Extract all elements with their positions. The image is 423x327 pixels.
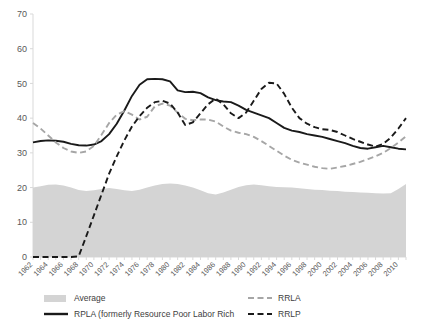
legend-label: RRLP [278, 309, 301, 319]
chart-series-group [33, 79, 406, 257]
y-tick-label: 30 [17, 148, 27, 158]
x-tick-label: 1988 [214, 260, 232, 278]
chart-legend: AverageRPLA (formerly Resource Poor Labo… [44, 293, 301, 319]
y-tick-label: 60 [17, 44, 27, 54]
x-tick-label: 2004 [336, 260, 354, 278]
x-tick-label: 1964 [31, 260, 49, 278]
x-tick-label: 1968 [62, 260, 80, 278]
x-tick-label: 2000 [306, 260, 324, 278]
chart-plot: 010203040506070 196219641966196819701972… [0, 0, 423, 327]
series-line-2 [33, 104, 406, 169]
legend-label: Average [74, 293, 106, 303]
legend-label: RRLA [278, 293, 301, 303]
legend-item-average: Average [44, 293, 106, 303]
series-area-0 [33, 183, 406, 257]
y-tick-label: 70 [17, 9, 27, 19]
y-tick-label: 20 [17, 183, 27, 193]
x-tick-label: 2010 [382, 260, 400, 278]
series-line-1 [33, 79, 406, 149]
x-tick-label: 1962 [16, 260, 34, 278]
x-tick-label: 1984 [184, 260, 202, 278]
y-tick-label: 50 [17, 79, 27, 89]
y-axis: 010203040506070 [17, 9, 33, 262]
x-tick-label: 1974 [108, 260, 126, 278]
x-tick-label: 1978 [138, 260, 156, 278]
x-tick-label: 1998 [290, 260, 308, 278]
legend-label: RPLA (formerly Resource Poor Labor Rich [74, 309, 234, 319]
y-tick-label: 10 [17, 217, 27, 227]
x-tick-label: 1966 [47, 260, 65, 278]
x-tick-label: 1982 [168, 260, 186, 278]
legend-item-rrlp: RRLP [248, 309, 301, 319]
y-tick-label: 40 [17, 113, 27, 123]
x-tick-label: 1990 [229, 260, 247, 278]
chart-container: 010203040506070 196219641966196819701972… [0, 0, 423, 327]
x-tick-label: 1996 [275, 260, 293, 278]
legend-swatch-area [44, 295, 66, 302]
x-tick-label: 1972 [92, 260, 110, 278]
x-tick-label: 1986 [199, 260, 217, 278]
x-tick-label: 1970 [77, 260, 95, 278]
x-tick-label: 1994 [260, 260, 278, 278]
legend-item-rpla: RPLA (formerly Resource Poor Labor Rich [44, 309, 234, 319]
x-tick-label: 1980 [153, 260, 171, 278]
x-tick-label: 1992 [245, 260, 263, 278]
x-tick-label: 2006 [351, 260, 369, 278]
x-axis: 1962196419661968197019721974197619781980… [16, 257, 406, 278]
legend-item-rrla: RRLA [248, 293, 301, 303]
x-tick-label: 2002 [321, 260, 339, 278]
x-tick-label: 2008 [366, 260, 384, 278]
x-tick-label: 1976 [123, 260, 141, 278]
